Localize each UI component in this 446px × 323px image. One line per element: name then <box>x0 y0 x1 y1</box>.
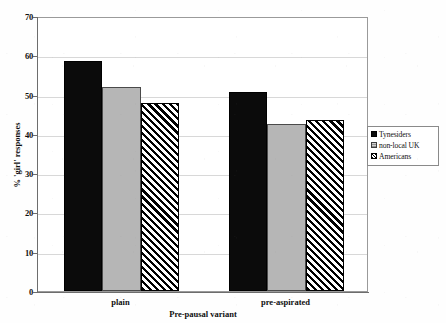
bar <box>267 124 305 291</box>
x-axis-line <box>37 292 369 293</box>
y-axis-tick-mark <box>33 213 37 214</box>
y-axis-tick-label: 60 <box>25 52 33 61</box>
bar <box>229 92 267 291</box>
legend-swatch-icon <box>371 142 377 148</box>
y-axis-tick-label: 50 <box>25 92 33 101</box>
bar <box>306 120 344 291</box>
y-axis-tick-mark <box>33 253 37 254</box>
legend-item: non-local UK <box>371 140 435 150</box>
bar <box>64 61 102 291</box>
legend-item: Americans <box>371 151 435 161</box>
y-axis-tick-mark <box>33 174 37 175</box>
y-axis-tick-mark <box>33 56 37 57</box>
y-axis-title: % 'girl' responses <box>12 90 22 220</box>
bar <box>102 87 140 291</box>
y-axis-tick-mark <box>33 17 37 18</box>
x-axis-tick-label: pre-aspirated <box>236 297 336 307</box>
y-axis-tick-label: 10 <box>25 249 33 258</box>
y-axis-tick-label: 30 <box>25 170 33 179</box>
y-axis-tick-label: 70 <box>25 13 33 22</box>
legend-item-label: non-local UK <box>379 141 419 150</box>
legend-swatch-icon <box>371 153 377 159</box>
x-axis-title: Pre-pausal variant <box>0 309 406 319</box>
chart-legend: Tynesidersnon-local UKAmericans <box>367 126 439 166</box>
legend-swatch-icon <box>371 131 377 137</box>
gridline <box>38 57 367 58</box>
legend-item: Tynesiders <box>371 129 435 139</box>
y-axis-tick-mark <box>33 96 37 97</box>
y-axis-tick-label: 40 <box>25 131 33 140</box>
legend-item-label: Americans <box>379 152 411 161</box>
legend-item-label: Tynesiders <box>379 130 411 139</box>
y-axis-line <box>37 17 38 293</box>
y-axis-tick-label: 20 <box>25 209 33 218</box>
y-axis-tick-mark <box>33 292 37 293</box>
chart-figure: 010203040506070 % 'girl' responses plain… <box>0 0 446 323</box>
plot-area <box>37 17 368 292</box>
bar <box>141 103 179 291</box>
x-axis-tick-label: plain <box>71 297 171 307</box>
y-axis-tick-mark <box>33 135 37 136</box>
